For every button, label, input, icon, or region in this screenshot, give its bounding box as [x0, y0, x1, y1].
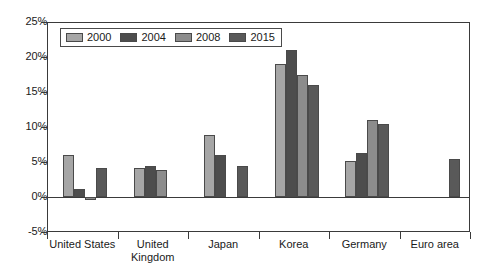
bar-group: [401, 23, 472, 231]
legend-swatch-icon: [175, 33, 192, 42]
bar-2000-japan: [204, 135, 215, 197]
bar-2004-germany: [356, 153, 367, 197]
legend-item-2015[interactable]: 2015: [229, 32, 274, 43]
bar-2004-japan: [215, 155, 226, 197]
legend-label: 2000: [87, 32, 111, 43]
bar-2015-euro-area: [449, 159, 460, 198]
legend-swatch-icon: [120, 33, 137, 42]
y-axis-tick-mark: [41, 57, 47, 58]
x-axis-category-label: Germany: [329, 238, 400, 251]
legend-item-2004[interactable]: 2004: [120, 32, 165, 43]
x-axis-category-label: Japan: [188, 238, 259, 251]
bar-2000-korea: [275, 64, 286, 197]
bar-2004-korea: [286, 50, 297, 197]
bar-2004-united-kingdom: [145, 166, 156, 198]
x-axis-category-label: United States: [47, 238, 118, 251]
legend-swatch-icon: [66, 33, 83, 42]
legend-label: 2008: [196, 32, 220, 43]
y-axis: 25%20%15%10%5%0%-5%: [0, 0, 47, 267]
bar-group: [48, 23, 119, 231]
bar-2004-united-states: [74, 189, 85, 197]
x-axis-separator-tick: [47, 232, 48, 239]
y-axis-tick-mark: [41, 92, 47, 93]
bar-2015-japan: [237, 166, 248, 198]
legend-item-2008[interactable]: 2008: [175, 32, 220, 43]
x-axis-category-label: United Kingdom: [118, 238, 189, 263]
chart-legend: 2000200420082015: [60, 28, 282, 47]
bars-layer: [48, 23, 469, 231]
bar-2008-germany: [367, 120, 378, 197]
legend-label: 2015: [250, 32, 274, 43]
legend-item-2000[interactable]: 2000: [66, 32, 111, 43]
bar-group: [330, 23, 401, 231]
bar-2015-united-states: [96, 168, 107, 197]
y-axis-tick-mark: [41, 127, 47, 128]
y-axis-tick-mark: [41, 22, 47, 23]
bar-2008-united-states: [85, 197, 96, 200]
bar-chart: 25%20%15%10%5%0%-5% 2000200420082015 Uni…: [0, 0, 484, 267]
x-axis-category-label: Korea: [259, 238, 330, 251]
bar-group: [189, 23, 260, 231]
bar-2015-germany: [378, 124, 389, 197]
x-axis-category-label: Euro area: [400, 238, 471, 251]
bar-2000-united-states: [63, 155, 74, 197]
bar-2000-united-kingdom: [134, 168, 145, 197]
bar-2008-korea: [297, 75, 308, 198]
bar-2000-germany: [345, 161, 356, 197]
bar-group: [119, 23, 190, 231]
legend-label: 2004: [141, 32, 165, 43]
legend-swatch-icon: [229, 33, 246, 42]
x-axis-separator-tick: [470, 232, 471, 239]
y-axis-tick-mark: [41, 162, 47, 163]
bar-group: [260, 23, 331, 231]
bar-2015-korea: [308, 85, 319, 197]
bar-2008-united-kingdom: [156, 170, 167, 197]
